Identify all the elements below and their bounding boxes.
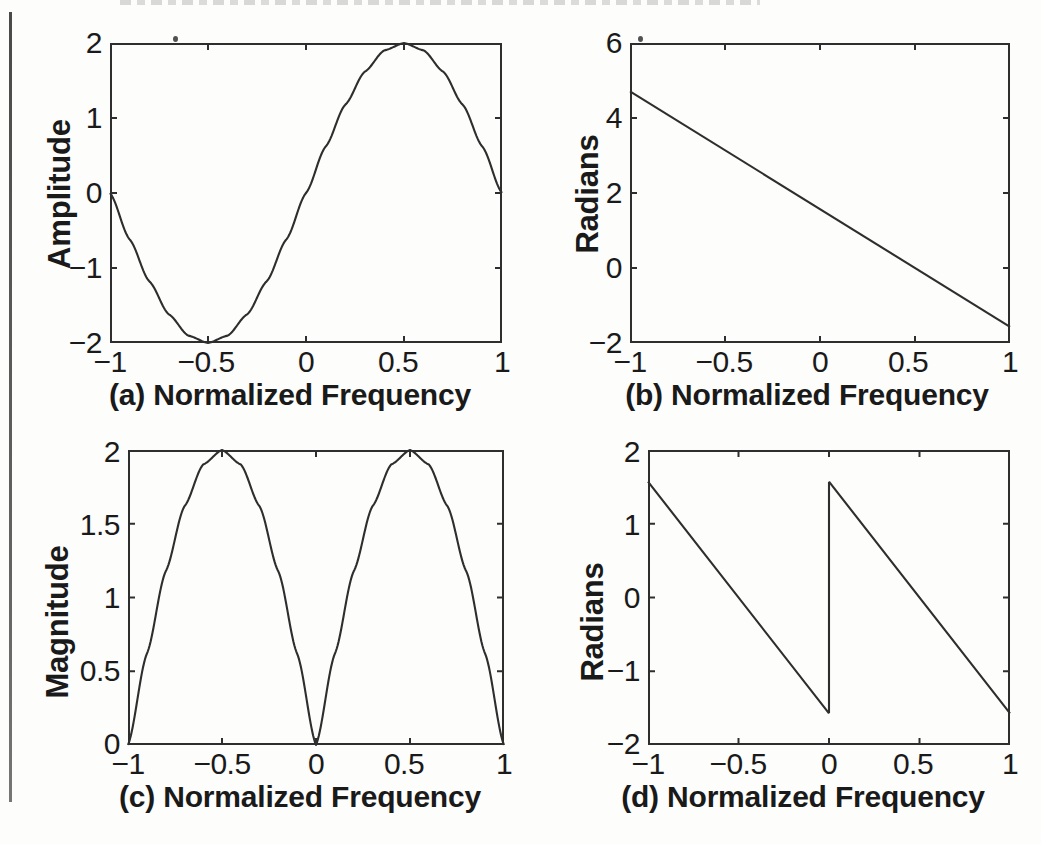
panel-c-xtick-m1: −1 — [102, 747, 154, 781]
panel-a: Amplitude 2 1 0 −1 −2 −1 −0.5 0 0.5 1 (a… — [0, 0, 520, 420]
panel-c-xlabel: (c) Normalized Frequency — [80, 780, 520, 814]
panel-b-xtick-05: 0.5 — [872, 345, 944, 379]
panel-d-xtick-1: 1 — [984, 747, 1036, 781]
panel-b-xtick-0: 0 — [794, 345, 846, 379]
panel-c: Magnitude 2 1.5 1 0.5 0 −1 −0.5 0 0.5 1 … — [0, 420, 520, 845]
panel-b-xtick-m05: −0.5 — [682, 345, 766, 379]
panel-d-xtick-m05: −0.5 — [696, 747, 780, 781]
panel-d-xtick-m1: −1 — [622, 747, 674, 781]
panel-d-xtick-0: 0 — [803, 747, 855, 781]
panel-a-plot — [0, 0, 520, 420]
panel-c-xtick-05: 0.5 — [368, 747, 440, 781]
panel-c-xtick-m05: −0.5 — [180, 747, 264, 781]
panel-a-xtick-m1: −1 — [84, 345, 136, 379]
panel-d: Radians 2 1 0 −1 −2 −1 −0.5 0 0.5 1 (d) … — [520, 420, 1041, 845]
panel-b-xtick-1: 1 — [984, 345, 1036, 379]
figure-page: Amplitude 2 1 0 −1 −2 −1 −0.5 0 0.5 1 (a… — [0, 0, 1041, 845]
panel-a-xtick-m05: −0.5 — [164, 345, 248, 379]
panel-d-xtick-05: 0.5 — [877, 747, 949, 781]
panel-c-xtick-0: 0 — [290, 747, 342, 781]
panel-b-plot — [520, 0, 1041, 420]
panel-a-xlabel: (a) Normalized Frequency — [70, 378, 510, 412]
panel-d-xlabel: (d) Normalized Frequency — [578, 780, 1028, 814]
panel-b-xlabel: (b) Normalized Frequency — [582, 378, 1032, 412]
panel-b-xtick-m1: −1 — [604, 345, 656, 379]
panel-b: Radians 6 4 2 0 −2 −1 −0.5 0 0.5 1 (b) N… — [520, 0, 1041, 420]
panel-a-xtick-05: 0.5 — [362, 345, 434, 379]
panel-a-xtick-0: 0 — [280, 345, 332, 379]
